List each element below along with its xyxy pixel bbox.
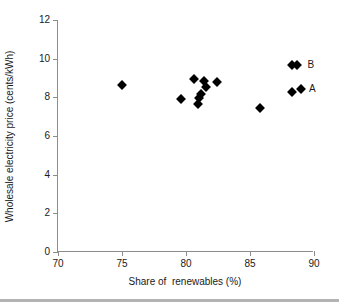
x-axis-tick-label: 75	[116, 259, 127, 269]
data-point	[176, 94, 186, 104]
x-axis-tick-label: 70	[52, 259, 63, 269]
y-axis-tick-label: 4	[44, 170, 50, 180]
y-axis-tick	[53, 20, 58, 21]
y-axis-tick-label: 6	[44, 131, 50, 141]
y-axis-tick	[53, 136, 58, 137]
data-point	[255, 103, 265, 113]
x-axis-tick	[250, 251, 251, 256]
x-axis-tick-label: 85	[244, 259, 255, 269]
series-annotation-b: B	[308, 60, 315, 70]
x-axis-tick-label: 90	[308, 259, 319, 269]
y-axis-tick	[53, 175, 58, 176]
x-axis-tick	[186, 251, 187, 256]
y-axis-tick-label: 8	[44, 92, 50, 102]
y-axis-tick	[53, 97, 58, 98]
y-axis-tick	[53, 213, 58, 214]
x-axis-tick-label: 80	[180, 259, 191, 269]
y-axis-tick-label: 12	[39, 15, 50, 25]
x-axis-tick	[122, 251, 123, 256]
data-point	[189, 74, 199, 84]
y-axis-tick-label: 0	[44, 247, 50, 257]
y-axis-tick-label: 10	[39, 54, 50, 64]
x-axis-tick	[58, 251, 59, 256]
data-point	[117, 80, 127, 90]
y-axis-tick	[53, 59, 58, 60]
series-annotation-a: A	[309, 84, 316, 94]
y-axis-title: Wholesale electricity price (cents/kWh)	[3, 20, 17, 252]
data-point	[296, 84, 306, 94]
x-axis-tick	[314, 251, 315, 256]
x-axis-title: Share of renewables (%)	[57, 276, 313, 287]
chart-figure: 0246810127075808590BA Wholesale electric…	[0, 0, 339, 302]
data-point	[212, 77, 222, 87]
plot-area: 0246810127075808590BA	[57, 20, 313, 252]
y-axis-title-text: Wholesale electricity price (cents/kWh)	[5, 50, 16, 222]
data-point	[292, 60, 302, 70]
y-axis-tick-label: 2	[44, 208, 50, 218]
